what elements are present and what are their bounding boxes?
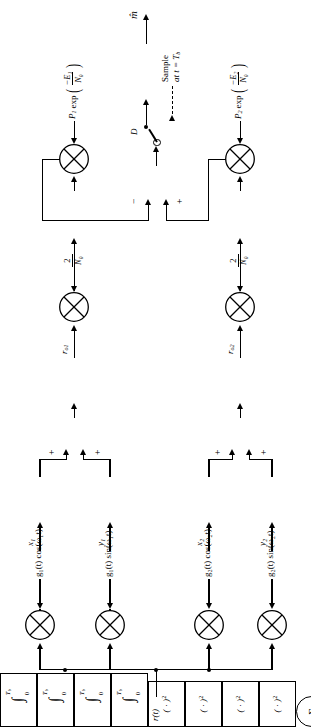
arrow-weight1-into-comp — [145, 199, 151, 205]
arrow-weight2-into-comp — [163, 199, 169, 205]
arrow-int2-sq2 — [107, 522, 113, 528]
junction-dot-bus-2 — [154, 668, 158, 672]
arrow-elbow2-summer — [80, 449, 86, 455]
arrow-bus-to-mixer-4 — [269, 643, 275, 649]
arrow-ref-to-mixer-3 — [206, 603, 212, 609]
wire-elbow3-summer — [232, 454, 233, 460]
wire-ref-to-mixer-1 — [39, 579, 40, 603]
wire-gainmix1-bessel1 — [74, 243, 75, 291]
wire-mixer1-int1 — [39, 609, 40, 611]
wire-sq1-elbow — [39, 459, 40, 477]
wire-int3-sq3 — [208, 527, 209, 551]
summer-branch-2-sign-bottom: + — [259, 450, 269, 455]
figure-canvas: r(t) g₁(t) cos(ω₁t) — [0, 0, 311, 727]
arrow-bessel1-weight1 — [71, 176, 77, 182]
arrow-weight2-value — [237, 138, 243, 144]
arrow-bus-to-mixer-2 — [107, 643, 113, 649]
squarer-3-label: ( · )2 — [235, 696, 245, 713]
wire-bus-to-mixer-3 — [208, 648, 209, 670]
mixer-2 — [94, 609, 126, 641]
arrow-int3-sq3 — [206, 522, 212, 528]
wire-switch-to-decision — [146, 103, 147, 125]
summer-branch-1-sign-bottom: + — [93, 450, 103, 455]
squarer-4-label: ( · )2 — [272, 696, 282, 713]
arrow-elbow3-summer — [229, 449, 235, 455]
wire-sqrt2-gain2 — [240, 330, 241, 358]
switch-label-D: D — [129, 129, 139, 136]
squarer-2-label: ( · )2 — [198, 696, 208, 713]
squarer-1-label: ( · )2 — [161, 696, 171, 713]
wire-elbow2-summer — [83, 454, 84, 460]
wire-decision-output — [146, 19, 147, 44]
summer-branch-1-symbol: Σ — [306, 708, 312, 714]
wire-weight1-up — [42, 159, 60, 160]
wire-weight2-into-comp — [166, 204, 167, 221]
arrow-summer1-sqrt1 — [71, 403, 77, 409]
arrow-comp-to-switch — [153, 146, 159, 152]
wire-summer2-sqrt2 — [240, 408, 241, 418]
arrow-bessel2-weight2 — [237, 176, 243, 182]
wire-sqrt1-gain1 — [74, 330, 75, 358]
prior-weight-1-argument: ( −E₁ N₀ ) — [63, 63, 82, 95]
weight-mixer-1 — [58, 143, 90, 175]
branch-label-y2: y₂ — [257, 539, 267, 546]
wire-weight1-value — [74, 121, 75, 139]
block-diagram: r(t) g₁(t) cos(ω₁t) — [0, 0, 311, 727]
wire-int1-sq1 — [39, 527, 40, 551]
squarer-4: ( · )2 — [259, 681, 296, 727]
wire-elbow4-up — [249, 459, 273, 460]
wire-ref-to-mixer-2 — [109, 579, 110, 603]
wire-bessel1-weight1 — [74, 181, 75, 191]
branch-label-y1: y₁ — [95, 539, 105, 546]
prior-weight-1: P1 exp ( −E₁ N₀ ) — [63, 63, 82, 119]
wire-elbow3-down — [208, 459, 232, 460]
mixer-1-reference-label: g₁(t) cos(ω₁t) — [33, 529, 43, 577]
junction-dot-bus-1 — [63, 668, 67, 672]
sample-control-dashed-line — [172, 86, 173, 114]
summer-branch-2-sign-top: + — [213, 450, 223, 455]
arrow-sqrt1-gain1 — [71, 325, 77, 331]
input-signal-label: r(t) — [150, 709, 160, 721]
wire-sq4-elbow — [271, 459, 272, 477]
gain-2-value: 2 N₀ — [229, 254, 248, 267]
sample-control-arrow — [169, 115, 175, 121]
prior-weight-2-exp: exp — [233, 95, 243, 108]
sampler-caption-line-1: Sample — [160, 55, 170, 82]
integrator-4: Tb ∫ 0 — [111, 673, 148, 727]
wire-weight2-up — [208, 159, 226, 160]
prior-weight-2: P2 exp ( −E₂ N₀ ) — [229, 63, 248, 119]
sampler-caption-line-2: at t = Tb — [171, 52, 181, 82]
wire-elbow4-summer — [249, 454, 250, 460]
wire-int2-sq2 — [109, 527, 110, 551]
wire-bus-stub-top — [39, 669, 41, 670]
branch-label-x1: x₁ — [25, 539, 35, 546]
wire-weight2-up-to-comp — [166, 220, 209, 221]
arrow-bus-to-mixer-1 — [37, 643, 43, 649]
wire-weight2-value — [240, 121, 241, 139]
arrow-elbow1-summer — [63, 449, 69, 455]
sampler-caption: Sample at t = Tb — [160, 52, 183, 82]
wire-elbow2-up — [83, 459, 111, 460]
wire-elbow1-down — [39, 459, 67, 460]
wire-input-main — [156, 669, 157, 697]
arrow-int4-sq4 — [269, 522, 275, 528]
wire-bessel2-weight2 — [240, 181, 241, 191]
output-label: m̂ — [127, 11, 139, 19]
wire-summer1-sqrt1 — [74, 408, 75, 418]
wire-bus-to-mixer-1 — [39, 648, 40, 670]
prior-weight-2-argument: ( −E₂ N₀ ) — [229, 63, 248, 95]
wire-sq2-elbow — [109, 459, 110, 477]
wire-weight1-into-comp — [148, 204, 149, 221]
prior-weight-1-exp: exp — [68, 95, 78, 108]
mixer-4-reference-label: g₂(t) sin(ω₂t) — [265, 531, 275, 577]
wire-elbow1-summer — [66, 454, 67, 460]
integrator-1: Tb ∫ 0 — [0, 673, 37, 727]
arrow-int1-sq1 — [37, 522, 43, 528]
summer-comparator-sign-plus: + — [175, 199, 185, 204]
mixer-3 — [193, 609, 225, 641]
integrator-4-label: Tb ∫ 0 — [121, 698, 138, 703]
arrow-gainmix1-bessel1 — [71, 238, 77, 244]
switch-closed-terminal — [144, 125, 148, 129]
wire-weight2-left — [208, 159, 209, 221]
arrow-gainmix2-bessel2 — [237, 238, 243, 244]
